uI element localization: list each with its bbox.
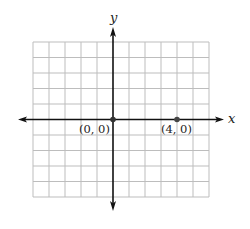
x-axis-label: x <box>228 111 236 126</box>
point-4-0-label: (4, 0) <box>161 122 192 136</box>
point-origin-label: (0, 0) <box>79 122 110 136</box>
y-axis-label: y <box>109 10 118 25</box>
coordinate-plane: x y (0, 0) (4, 0) <box>0 0 250 229</box>
point-origin <box>110 117 116 123</box>
